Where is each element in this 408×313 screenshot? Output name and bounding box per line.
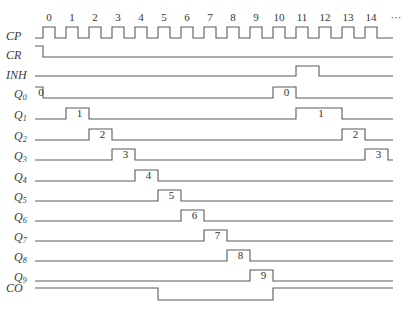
cp-waveform bbox=[35, 27, 393, 38]
pulse-number: 10 bbox=[274, 11, 286, 23]
q0-waveform bbox=[35, 87, 393, 98]
label-inh: INH bbox=[5, 68, 28, 82]
state-number: 2 bbox=[100, 128, 106, 140]
q9-waveform bbox=[35, 270, 393, 281]
pulse-number: 1 bbox=[69, 11, 75, 23]
label-q1: Q1 bbox=[14, 108, 27, 123]
pulse-number: 8 bbox=[230, 11, 236, 23]
co-waveform bbox=[35, 288, 393, 300]
svg-text:Q8: Q8 bbox=[14, 250, 27, 265]
label-cp: CP bbox=[6, 29, 22, 43]
q6-waveform bbox=[35, 210, 393, 221]
label-q0: Q0 bbox=[14, 87, 27, 102]
pulse-number: 11 bbox=[297, 11, 308, 23]
cr-waveform bbox=[35, 46, 393, 57]
pulse-number: 2 bbox=[92, 11, 98, 23]
q5-waveform bbox=[35, 190, 393, 201]
svg-text:Q5: Q5 bbox=[14, 190, 27, 205]
pulse-number: 3 bbox=[115, 11, 121, 23]
q3-waveform bbox=[35, 149, 393, 160]
svg-text:Q4: Q4 bbox=[14, 170, 27, 185]
pulse-number: 7 bbox=[207, 11, 213, 23]
pulse-number: 0 bbox=[46, 11, 52, 23]
pulse-numbers: 01234567891011121314··· bbox=[46, 11, 401, 23]
pulse-number: 13 bbox=[343, 11, 355, 23]
svg-text:Q2: Q2 bbox=[14, 129, 27, 144]
state-number: 2 bbox=[353, 128, 359, 140]
pulse-number: 9 bbox=[253, 11, 259, 23]
state-number: 1 bbox=[318, 107, 324, 119]
svg-text:Q3: Q3 bbox=[14, 149, 27, 164]
pulse-number: 4 bbox=[138, 11, 144, 23]
svg-text:Q7: Q7 bbox=[14, 230, 28, 245]
label-q7: Q7 bbox=[14, 230, 28, 245]
inh-waveform bbox=[35, 66, 393, 76]
svg-text:Q1: Q1 bbox=[14, 108, 27, 123]
pulse-number: 14 bbox=[366, 11, 378, 23]
label-cr: CR bbox=[6, 48, 22, 62]
state-number: 1 bbox=[77, 107, 83, 119]
state-number: 3 bbox=[376, 148, 382, 160]
label-q6: Q6 bbox=[14, 210, 27, 225]
state-number: 0 bbox=[284, 86, 290, 98]
state-number: 5 bbox=[169, 189, 175, 201]
state-number: 8 bbox=[238, 249, 244, 261]
label-q4: Q4 bbox=[14, 170, 27, 185]
svg-text:Q0: Q0 bbox=[14, 87, 27, 102]
state-number: 3 bbox=[123, 148, 129, 160]
q4-waveform bbox=[35, 170, 393, 181]
svg-text:Q6: Q6 bbox=[14, 210, 27, 225]
waveforms: 00112233456789 bbox=[35, 27, 393, 300]
q1-waveform bbox=[35, 108, 393, 119]
pulse-number: 6 bbox=[184, 11, 190, 23]
ellipsis: ··· bbox=[391, 11, 402, 23]
timing-diagram: CP CR INH Q0 Q1 Q2 Q3 Q4 Q5 Q6 Q7 Q8 Q9 … bbox=[0, 0, 408, 313]
pulse-number: 12 bbox=[320, 11, 331, 23]
state-number: 6 bbox=[192, 209, 198, 221]
label-co: CO bbox=[6, 281, 23, 295]
label-q3: Q3 bbox=[14, 149, 27, 164]
q8-waveform bbox=[35, 250, 393, 261]
label-q5: Q5 bbox=[14, 190, 27, 205]
label-q8: Q8 bbox=[14, 250, 27, 265]
label-q2: Q2 bbox=[14, 129, 27, 144]
state-number: 4 bbox=[146, 169, 152, 181]
q2-waveform bbox=[35, 129, 393, 140]
state-number: 9 bbox=[261, 269, 267, 281]
state-number: 7 bbox=[215, 229, 221, 241]
pulse-number: 5 bbox=[161, 11, 167, 23]
